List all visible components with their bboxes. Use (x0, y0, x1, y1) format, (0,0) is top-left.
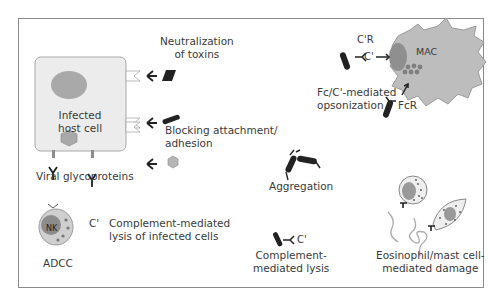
complement-marker-label: C' (297, 233, 307, 246)
cell-receptors (126, 71, 140, 132)
aggregation-label: Aggregation (269, 180, 333, 193)
label-line: Neutralization (160, 35, 234, 48)
macrophage-label: MAC (416, 45, 437, 58)
label-line: adhesion (165, 137, 278, 150)
neutralization-label: Neutralization of toxins (160, 35, 234, 61)
eosinophil-cell (399, 176, 427, 208)
mast-cell (428, 199, 466, 231)
label-line: Blocking attachment/ (165, 124, 278, 137)
complement-infected-label: Complement-mediated lysis of infected ce… (109, 217, 230, 243)
opsonization-label: Fc/C'-mediated opsonization (317, 86, 396, 112)
infected-host-cell (35, 57, 126, 158)
glycoprotein-stub-icon (52, 150, 55, 158)
fc-receptor-label: FcR (398, 99, 417, 112)
bacterium-icon (339, 52, 351, 71)
bacterium-icon (272, 231, 283, 247)
antibody-icon (283, 236, 294, 244)
label-line: Complement-mediated (109, 217, 230, 230)
eosinophil-label: Eosinophil/mast cell- mediated damage (376, 249, 485, 275)
label-line: mediated lysis (253, 262, 329, 275)
virus-hexagon-icon (168, 156, 178, 168)
complement-lysis-label: Complement- mediated lysis (253, 249, 329, 275)
complement-receptor-label: C'R (357, 33, 374, 46)
blocking-label: Blocking attachment/ adhesion (165, 124, 278, 150)
label-line: opsonization (317, 99, 396, 112)
glycoprotein-label: Viral glycoproteins (36, 170, 134, 183)
label-line: Fc/C'-mediated (317, 86, 396, 99)
label-line: Complement- (253, 249, 329, 262)
glycoprotein-stub-icon (91, 150, 94, 158)
nk-label: NK (46, 222, 57, 235)
aggregation-icon (284, 150, 320, 180)
host-cell-label: Infected host cell (58, 109, 102, 135)
toxin-icon (162, 70, 176, 81)
label-line: lysis of infected cells (109, 230, 230, 243)
nucleus-icon (51, 71, 87, 99)
complement-marker-label: C' (364, 50, 374, 63)
label-line: Eosinophil/mast cell- (376, 249, 485, 262)
label-line: host cell (58, 122, 102, 135)
label-line: mediated damage (376, 262, 485, 275)
complement-marker-label: C' (89, 217, 99, 230)
antibody-icons (147, 71, 157, 169)
label-line: Infected (58, 109, 102, 122)
label-line: of toxins (160, 48, 234, 61)
adcc-label: ADCC (43, 257, 73, 270)
